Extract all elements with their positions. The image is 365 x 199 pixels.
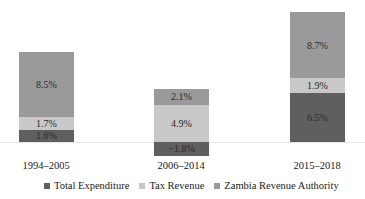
category-label: 2006–2014: [136, 160, 226, 171]
data-label: 1.6%: [36, 130, 57, 141]
data-label: 6.5%: [307, 112, 328, 123]
data-label: 8.5%: [36, 79, 57, 90]
data-label: 4.9%: [171, 118, 192, 129]
bar-segment: 4.9%: [154, 105, 209, 142]
legend-label: Zambia Revenue Authority: [224, 180, 338, 191]
category-label: 1994–2005: [1, 160, 91, 171]
bar-segment: 1.6%: [19, 130, 74, 142]
legend-swatch-icon: [214, 183, 220, 189]
stacked-bar-chart: 1.6%1.7%8.5%−1.8%4.9%2.1%6.5%1.9%8.7% 19…: [0, 0, 365, 199]
category-label: 2015–2018: [272, 160, 362, 171]
bar-segment: 8.7%: [290, 12, 345, 78]
legend-label: Tax Revenue: [149, 180, 204, 191]
legend-swatch-icon: [139, 183, 145, 189]
data-label: 1.7%: [36, 118, 57, 129]
legend-item-tax-revenue: Tax Revenue: [139, 180, 204, 191]
bar-segment: 1.9%: [290, 78, 345, 92]
data-label: 1.9%: [307, 80, 328, 91]
data-label: −1.8%: [168, 143, 194, 154]
legend: Total Expenditure Tax Revenue Zambia Rev…: [44, 180, 349, 191]
legend-swatch-icon: [44, 183, 50, 189]
bar-segment: −1.8%: [154, 142, 209, 156]
bar-segment: 6.5%: [290, 93, 345, 142]
data-label: 2.1%: [171, 91, 192, 102]
bar-segment: 8.5%: [19, 52, 74, 117]
legend-label: Total Expenditure: [54, 180, 129, 191]
bar-segment: 1.7%: [19, 117, 74, 130]
bar-segment: 2.1%: [154, 89, 209, 105]
legend-item-total-expenditure: Total Expenditure: [44, 180, 129, 191]
legend-item-zambia-revenue-authority: Zambia Revenue Authority: [214, 180, 338, 191]
data-label: 8.7%: [307, 40, 328, 51]
